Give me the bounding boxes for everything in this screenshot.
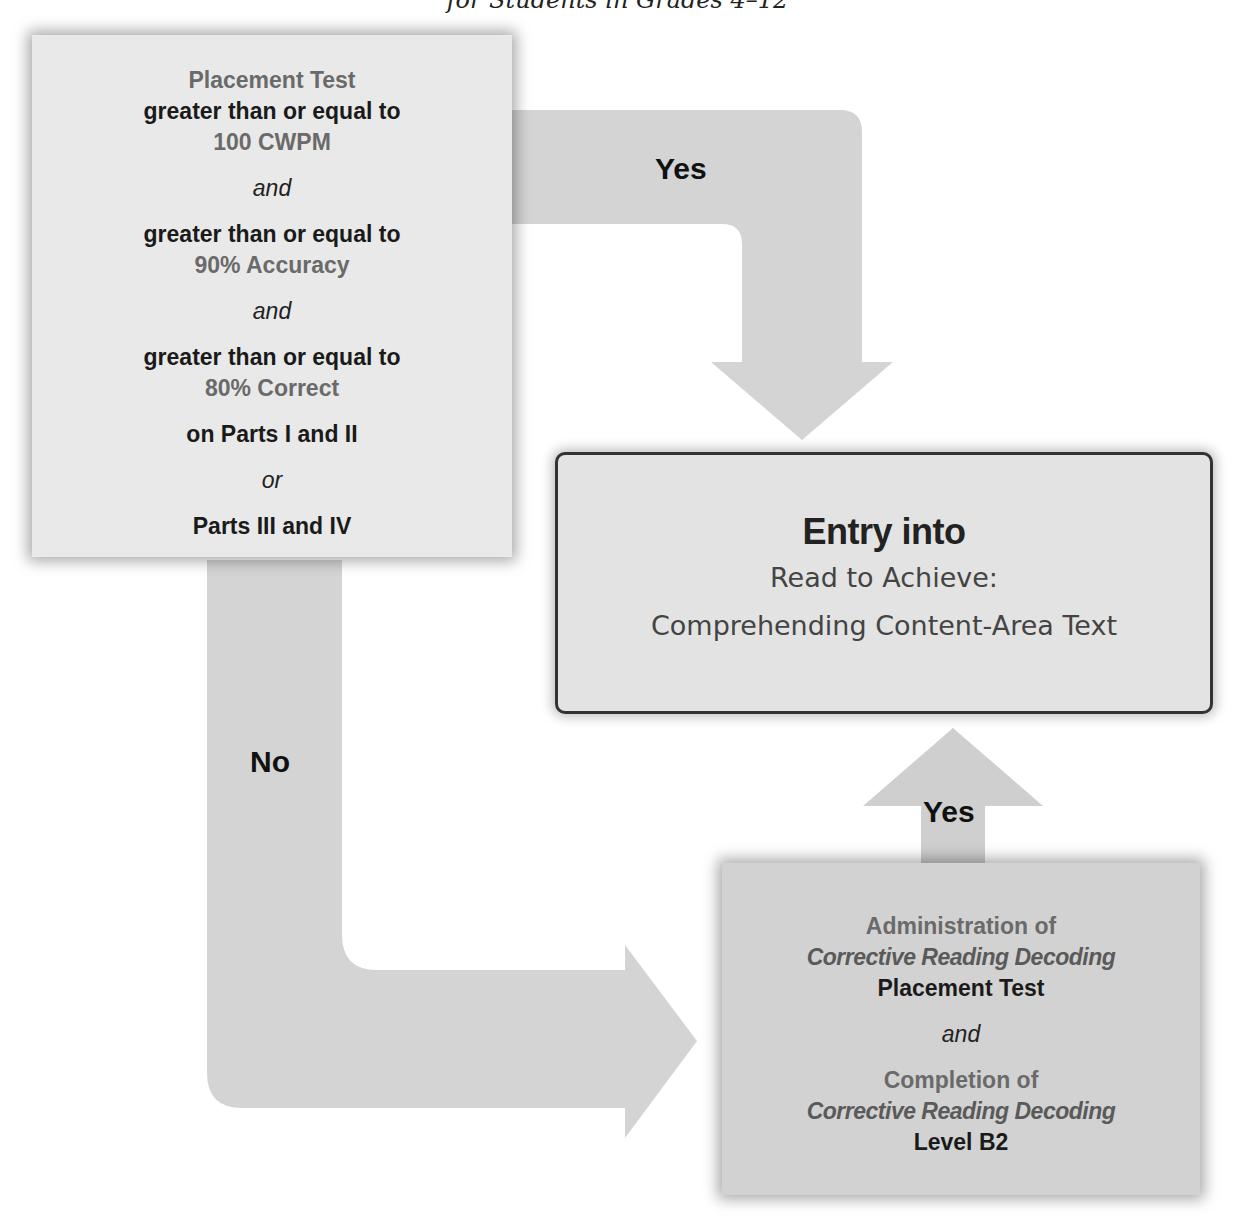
corrective-line: Placement Test: [722, 973, 1200, 1004]
criteria-value-cwpm: 100 CWPM: [32, 127, 512, 158]
criteria-text: greater than or equal to: [32, 342, 512, 373]
corrective-program-name: Corrective Reading Decoding: [722, 1096, 1200, 1127]
criteria-heading: Placement Test: [32, 65, 512, 96]
criteria-conjunction: and: [32, 296, 512, 327]
entry-subtitle-course: Comprehending Content-Area Text: [558, 602, 1210, 650]
corrective-program-name: Corrective Reading Decoding: [722, 942, 1200, 973]
entry-subtitle-program: Read to Achieve:: [558, 554, 1210, 602]
yes-label-bottom: Yes: [923, 795, 975, 829]
entry-box: Entry into Read to Achieve: Comprehendin…: [555, 452, 1213, 714]
corrective-line: Completion of: [722, 1065, 1200, 1096]
criteria-text: greater than or equal to: [32, 219, 512, 250]
criteria-parts: on Parts I and II: [32, 419, 512, 450]
criteria-text: greater than or equal to: [32, 96, 512, 127]
corrective-conjunction: and: [722, 1019, 1200, 1050]
corrective-line: Administration of: [722, 911, 1200, 942]
placement-criteria-box: Placement Test greater than or equal to …: [32, 35, 512, 557]
corrective-reading-box: Administration of Corrective Reading Dec…: [722, 863, 1200, 1195]
criteria-conjunction: or: [32, 465, 512, 496]
yes-label-top: Yes: [655, 152, 707, 186]
criteria-value-correct: 80% Correct: [32, 373, 512, 404]
no-label: No: [250, 745, 290, 779]
criteria-parts: Parts III and IV: [32, 511, 512, 542]
criteria-value-accuracy: 90% Accuracy: [32, 250, 512, 281]
corrective-level: Level B2: [722, 1127, 1200, 1158]
criteria-conjunction: and: [32, 173, 512, 204]
entry-title: Entry into: [558, 510, 1210, 554]
